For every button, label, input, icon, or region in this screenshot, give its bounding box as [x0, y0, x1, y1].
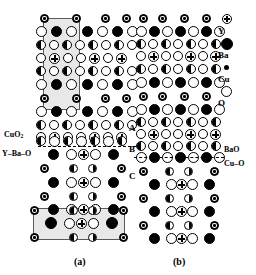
atom-o [161, 51, 171, 61]
atom-ba [204, 206, 215, 217]
panel-b [140, 8, 220, 248]
atom-o [136, 129, 146, 139]
atom-ba-o [30, 206, 39, 215]
atom-o [49, 66, 59, 76]
atom-o [173, 64, 183, 74]
atom-o [136, 77, 147, 88]
atom-ba [106, 217, 118, 229]
atom-ba [149, 206, 160, 217]
atom-y [210, 129, 221, 140]
atom-cu-o [186, 39, 196, 49]
atom-cu-o [69, 164, 78, 173]
atom-ba [201, 104, 212, 115]
atom-ba [48, 204, 59, 215]
atom-y [78, 177, 89, 188]
atom-ba-o [40, 14, 49, 23]
atom-o [66, 177, 77, 188]
atom-cu-o [36, 120, 46, 130]
atom-cu-o [117, 136, 127, 146]
atom-ba-o [119, 233, 128, 242]
atom-o [66, 149, 77, 160]
atom-cu-o [136, 141, 146, 151]
atom-ba [82, 106, 93, 117]
atom-ba [112, 26, 123, 37]
legend-label-ba: Ba [218, 50, 229, 60]
panel-b-divider [134, 157, 224, 158]
circle-with-cross-icon [222, 14, 232, 24]
atom-ba-o [117, 164, 126, 173]
atom-o [187, 233, 198, 244]
legend-label-cu: Cu [218, 74, 230, 84]
atom-o [173, 51, 183, 61]
atom-o [90, 149, 101, 160]
atom-y [176, 206, 187, 217]
atom-cu-o [88, 164, 97, 173]
atom-ba-o [101, 94, 110, 103]
atom-o [136, 26, 147, 37]
atom-o [162, 77, 173, 88]
panel-a [28, 8, 128, 248]
atom-cu-o [88, 66, 98, 76]
atom-cu-o [184, 167, 193, 176]
atom-o [75, 40, 85, 50]
label-region-a: A [129, 124, 136, 133]
atom-ba [149, 179, 160, 190]
atom-o [162, 26, 173, 37]
atom-y [185, 51, 196, 62]
atom-y [148, 129, 159, 140]
atom-cu-o [36, 66, 46, 76]
atom-o [66, 106, 77, 117]
atom-ba-o [158, 14, 167, 23]
atom-ba [204, 179, 215, 190]
atom-o [187, 179, 198, 190]
atom-ba-o [139, 92, 148, 101]
atom-ba [108, 149, 119, 160]
atom-cu-o [161, 64, 171, 74]
atom-cu-o [114, 40, 124, 50]
atom-ba-o [72, 94, 81, 103]
atom-o [90, 177, 101, 188]
panel-b-caption: (b) [173, 257, 185, 267]
atom-cu-o [211, 117, 221, 127]
atom-ba [48, 177, 59, 188]
atom-ba [112, 106, 123, 117]
atom-cu-o [165, 167, 174, 176]
atom-ba-o [30, 233, 39, 242]
atom-ba-o [117, 192, 126, 201]
legend-entry-ba: Ba [214, 38, 256, 62]
atom-ba-o [210, 221, 219, 230]
atom-o [198, 51, 208, 61]
atom-ba [51, 26, 62, 37]
atom-ba-o [40, 94, 49, 103]
atom-ba [175, 26, 186, 37]
atom-cu-o [136, 117, 146, 127]
atom-cu-o [90, 136, 100, 146]
atom-y [148, 51, 159, 62]
atom-y [78, 149, 89, 160]
atom-o [64, 218, 75, 229]
atom-cu-o [62, 120, 72, 130]
atom-o [148, 64, 158, 74]
atom-ba-o [158, 92, 167, 101]
atom-cu-o [161, 141, 171, 151]
atom-o [173, 141, 183, 151]
atom-o [148, 117, 158, 127]
atom-ba-o [72, 14, 81, 23]
atom-y [116, 53, 127, 64]
atom-ba [201, 77, 212, 88]
atom-o [188, 104, 199, 115]
atom-ba-o [202, 14, 211, 23]
atom-o [66, 26, 77, 37]
atom-o [36, 26, 47, 37]
atom-o [148, 39, 158, 49]
atom-ba [108, 177, 119, 188]
atom-ba-o [139, 167, 148, 176]
atom-o [173, 117, 183, 127]
legend-entry-y: Y [214, 14, 256, 38]
atom-cu-o [88, 192, 97, 201]
legend-label-y: Y [218, 26, 225, 36]
atom-ba-o [119, 206, 128, 215]
atom-o [198, 64, 208, 74]
atom-cu-o [186, 64, 196, 74]
atom-ba [175, 77, 186, 88]
